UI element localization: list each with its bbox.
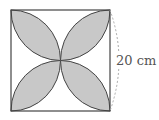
leaf-top-right [61, 10, 111, 61]
dimension-label: 20 cm [116, 53, 156, 68]
leaf-top-left [11, 10, 61, 61]
leaf-bottom-left [11, 61, 61, 112]
leaf-bottom-right [61, 61, 111, 112]
geometry-figure: 20 cm [0, 0, 159, 120]
